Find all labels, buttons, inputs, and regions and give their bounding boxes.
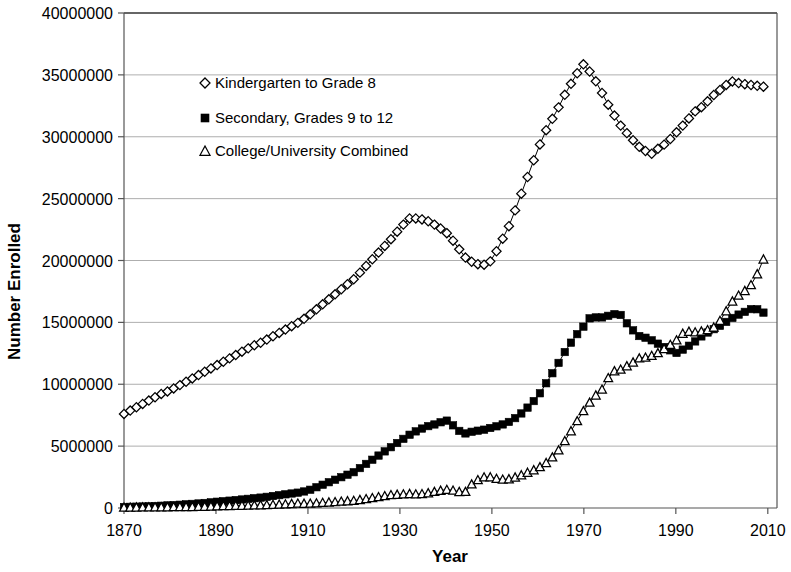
marker-square: [555, 359, 562, 366]
x-tick-label: 1990: [658, 522, 694, 539]
y-tick-label: 15000000: [42, 314, 113, 331]
chart-canvas: 0500000010000000150000002000000025000000…: [0, 0, 791, 572]
marker-square: [542, 380, 549, 387]
y-axis-title: Number Enrolled: [5, 223, 24, 360]
legend-label: College/University Combined: [215, 142, 408, 159]
x-tick-label: 1970: [566, 522, 602, 539]
y-tick-label: 20000000: [42, 253, 113, 270]
legend-entry: College/University Combined: [200, 142, 408, 159]
chart-background: [0, 0, 791, 572]
marker-square: [760, 309, 767, 316]
y-tick-label: 10000000: [42, 376, 113, 393]
marker-square: [617, 311, 624, 318]
y-tick-label: 5000000: [51, 438, 113, 455]
y-tick-label: 25000000: [42, 191, 113, 208]
marker-square: [530, 397, 537, 404]
marker-square: [623, 320, 630, 327]
x-tick-label: 1890: [198, 522, 234, 539]
x-tick-label: 1870: [106, 522, 142, 539]
x-tick-label: 1910: [290, 522, 326, 539]
marker-square: [580, 323, 587, 330]
x-axis-title: Year: [432, 547, 468, 566]
y-tick-label: 35000000: [42, 67, 113, 84]
marker-square: [536, 390, 543, 397]
legend-entry: Kindergarten to Grade 8: [200, 74, 376, 91]
x-tick-label: 1930: [382, 522, 418, 539]
y-tick-label: 30000000: [42, 129, 113, 146]
enrollment-line-chart: 0500000010000000150000002000000025000000…: [0, 0, 791, 572]
y-tick-label: 0: [104, 500, 113, 517]
marker-square: [561, 348, 568, 355]
y-tick-labels-group: 0500000010000000150000002000000025000000…: [42, 5, 124, 517]
marker-square: [549, 370, 556, 377]
marker-square: [573, 330, 580, 337]
x-tick-label: 2010: [750, 522, 786, 539]
legend-label: Kindergarten to Grade 8: [215, 74, 376, 91]
x-tick-label: 1950: [474, 522, 510, 539]
marker-square: [567, 339, 574, 346]
legend-label: Secondary, Grades 9 to 12: [215, 109, 393, 126]
marker-square: [201, 114, 209, 122]
y-tick-label: 40000000: [42, 5, 113, 22]
legend-entry: Secondary, Grades 9 to 12: [201, 109, 393, 126]
